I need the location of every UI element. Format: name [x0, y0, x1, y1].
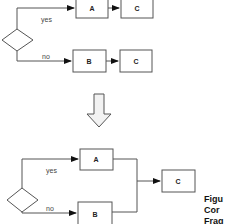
caption-line-2: Cor: [204, 205, 224, 216]
node-c-bottom-label: C: [133, 58, 138, 65]
node-a-label: A: [93, 156, 98, 163]
decision-diamond: [7, 188, 38, 212]
caption-line-3: Frag: [204, 216, 224, 224]
figure-caption: Figu Cor Frag: [204, 194, 224, 224]
node-c-top-label: C: [134, 5, 139, 12]
decision-diamond: [2, 29, 33, 51]
yes-label: yes: [46, 167, 57, 175]
top-diagram: yes A C no B C: [2, 0, 153, 72]
bottom-diagram: yes A no B C: [7, 149, 195, 224]
merge-connector-a: [112, 159, 137, 212]
diagram-canvas: yes A C no B C yes A no B C: [0, 0, 227, 224]
node-c-label: C: [175, 178, 180, 185]
node-b-label: B: [86, 58, 91, 65]
node-a-label: A: [89, 5, 94, 12]
caption-line-1: Figu: [204, 194, 224, 205]
no-label: no: [42, 53, 50, 60]
no-label: no: [46, 205, 54, 212]
down-arrow-icon: [87, 94, 111, 127]
no-connector: [22, 212, 76, 213]
yes-label: yes: [41, 16, 52, 24]
node-b-label: B: [92, 211, 97, 218]
